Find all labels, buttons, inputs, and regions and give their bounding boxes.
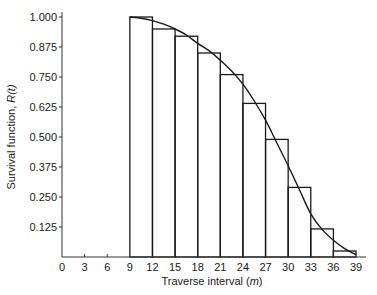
y-tick-label: 0.250 [29,191,57,203]
histogram-bar [311,229,334,257]
histogram-bar [220,75,243,257]
x-tick-label: 33 [305,261,317,273]
x-tick-label: 24 [237,261,249,273]
x-axis-title: Traverse interval (m) [161,275,262,287]
x-tick-label: 3 [82,261,88,273]
y-tick-label: 0.125 [29,221,57,233]
y-tick-label: 0.875 [29,41,57,53]
x-tick-label: 30 [282,261,294,273]
x-tick-label: 18 [192,261,204,273]
histogram-bar [333,251,356,257]
histogram-bar [152,29,175,257]
x-tick-label: 9 [127,261,133,273]
histogram-bar [288,187,311,257]
x-tick-label: 12 [146,261,158,273]
x-tick-label: 36 [327,261,339,273]
histogram-bars [130,17,356,257]
survival-chart: 0.1250.2500.3750.5000.6250.7500.8751.000… [0,0,377,295]
y-tick-label: 0.375 [29,161,57,173]
y-tick-label: 1.000 [29,11,57,23]
y-tick-label: 0.625 [29,101,57,113]
x-tick-label: 15 [169,261,181,273]
x-tick-label: 39 [350,261,362,273]
x-tick-label: 0 [59,261,65,273]
x-tick-label: 27 [259,261,271,273]
histogram-bar [266,139,289,257]
histogram-bar [198,53,221,257]
histogram-bar [175,36,198,257]
y-axis-title: Survival function, R(t) [5,84,17,189]
histogram-bar [130,17,153,257]
y-tick-label: 0.500 [29,131,57,143]
axes [62,12,366,257]
x-tick-label: 6 [104,261,110,273]
histogram-bar [243,103,266,257]
y-tick-label: 0.750 [29,71,57,83]
x-tick-label: 21 [214,261,226,273]
y-axis-ticks: 0.1250.2500.3750.5000.6250.7500.8751.000 [29,11,62,233]
